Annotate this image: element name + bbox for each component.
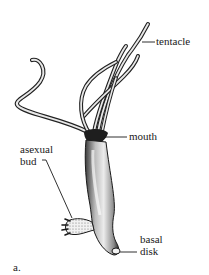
label-asexual-bud-line2: bud (20, 156, 37, 167)
basal-disk-shape (112, 248, 120, 254)
label-basal-disk-line1: basal (140, 234, 163, 245)
label-asexual-bud-line1: asexual (20, 144, 53, 155)
asexual-bud-leader (42, 160, 72, 218)
hydra-diagram: tentacle mouth asexual bud basal disk a. (0, 0, 209, 275)
asexual-bud-shape (62, 219, 94, 235)
label-tentacle: tentacle (156, 36, 190, 47)
figure-caption: a. (13, 262, 21, 273)
label-mouth: mouth (129, 131, 157, 142)
body-column (85, 140, 119, 255)
tentacles (17, 24, 148, 134)
label-basal-disk-line2: disk (140, 246, 158, 257)
